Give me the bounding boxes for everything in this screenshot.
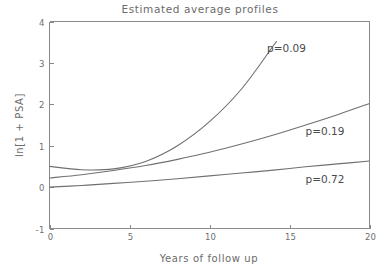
y-tick-label: 2 [39, 100, 45, 110]
chart-canvas: -101234 05101520 Estimated average profi… [0, 0, 384, 272]
y-axis-title: ln[1 + PSA] [14, 93, 25, 157]
y-axis-ticks: -101234 [36, 18, 54, 235]
y-tick-label: -1 [36, 225, 45, 235]
curve-annotation-label: p=0.72 [306, 173, 345, 185]
data-curves [50, 42, 370, 188]
x-tick-label: 0 [48, 232, 54, 242]
chart-title: Estimated average profiles [122, 3, 279, 15]
x-tick-label: 20 [365, 232, 376, 242]
x-tick-label: 5 [128, 232, 134, 242]
data-curve [50, 103, 370, 178]
curve-annotation-label: p=0.09 [267, 42, 306, 54]
x-tick-label: 15 [285, 232, 296, 242]
curve-annotations: p=0.09p=0.19p=0.72 [267, 42, 344, 185]
x-tick-label: 10 [205, 232, 216, 242]
y-tick-label: 0 [39, 183, 45, 193]
curve-annotation-label: p=0.19 [306, 125, 345, 137]
chart-figure: -101234 05101520 Estimated average profi… [0, 0, 384, 272]
x-axis-ticks: 05101520 [48, 225, 376, 242]
data-curve [50, 42, 277, 170]
y-tick-label: 4 [39, 18, 45, 28]
y-tick-label: 3 [39, 59, 45, 69]
x-axis-title: Years of follow up [159, 253, 259, 264]
y-tick-label: 1 [39, 142, 45, 152]
